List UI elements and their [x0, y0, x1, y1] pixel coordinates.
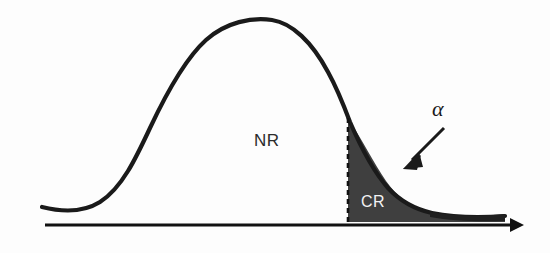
x-axis-arrowhead: [510, 218, 524, 232]
critical-region-label: CR: [361, 193, 385, 211]
distribution-figure: NR CR α: [0, 0, 550, 253]
alpha-symbol-label: α: [432, 96, 444, 122]
non-rejection-region-label: NR: [254, 131, 280, 151]
alpha-annotation-arrowhead-fill: [403, 152, 423, 169]
distribution-plot-svg: [0, 0, 550, 253]
